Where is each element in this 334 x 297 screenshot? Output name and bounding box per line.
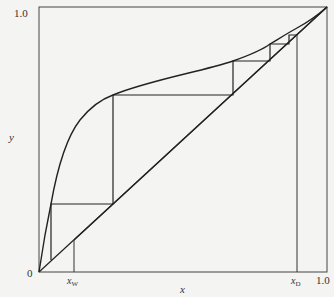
origin-label: 0 <box>27 267 33 279</box>
x-max-label: 1.0 <box>316 274 330 286</box>
xw-label: xW <box>66 275 78 288</box>
xd-label: xD <box>290 275 301 288</box>
y-axis-label: y <box>8 131 14 143</box>
y-max-label: 1.0 <box>14 7 28 19</box>
mccabe-thiele-diagram: 1.0 0 1.0 y x xW xD <box>0 0 334 297</box>
x-axis-label: x <box>179 283 185 295</box>
